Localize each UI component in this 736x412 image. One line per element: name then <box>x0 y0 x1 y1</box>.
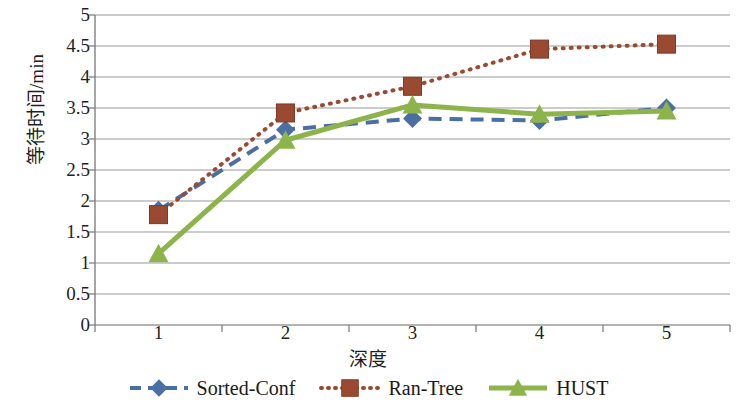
legend-item-ran-tree[interactable]: Ran-Tree <box>319 378 463 398</box>
data-point-marker <box>531 40 549 58</box>
legend-swatch-triangle-icon <box>487 379 549 397</box>
x-tick-label: 2 <box>266 322 306 344</box>
legend-swatch-diamond-icon <box>128 379 190 397</box>
legend-item-hust[interactable]: HUST <box>487 378 608 398</box>
data-point-marker <box>658 35 676 53</box>
chart-figure: 等待时间/min 00.511.522.533.544.55 12345 深度 … <box>0 0 736 412</box>
data-point-marker <box>277 104 295 122</box>
data-point-marker <box>342 380 359 397</box>
legend-label: Ran-Tree <box>388 378 463 398</box>
x-tick-label: 5 <box>647 322 687 344</box>
series-line <box>159 44 667 215</box>
data-point-marker <box>150 206 168 224</box>
gridlines <box>89 15 730 325</box>
data-point-marker <box>404 77 422 95</box>
x-tick-label: 4 <box>520 322 560 344</box>
legend-label: HUST <box>556 378 608 398</box>
series-ran-tree <box>150 35 676 224</box>
data-point-marker <box>150 379 167 396</box>
x-axis-title: 深度 <box>0 344 736 371</box>
legend-swatch-square-icon <box>319 379 381 397</box>
x-tick-label: 3 <box>393 322 433 344</box>
chart-legend: Sorted-ConfRan-TreeHUST <box>0 378 736 398</box>
legend-label: Sorted-Conf <box>197 378 296 398</box>
legend-item-sorted-conf[interactable]: Sorted-Conf <box>128 378 296 398</box>
x-tick-label: 1 <box>139 322 179 344</box>
data-series-layer <box>149 35 677 262</box>
